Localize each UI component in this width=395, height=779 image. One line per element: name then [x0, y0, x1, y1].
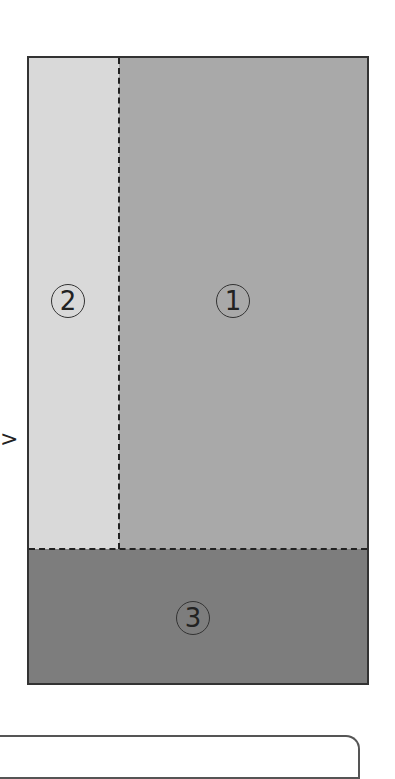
region-2-number: 2 — [60, 288, 77, 314]
rectangle-diagram: 2 1 3 — [27, 56, 369, 685]
region-3-number: 3 — [185, 605, 202, 631]
horizontal-dashed-divider — [29, 548, 367, 550]
side-chevron-mark: > — [0, 428, 18, 450]
region-2-label: 2 — [51, 284, 85, 318]
region-3-label: 3 — [176, 601, 210, 635]
region-1-number: 1 — [225, 288, 242, 314]
vertical-dashed-divider — [118, 58, 120, 549]
region-1-label: 1 — [216, 284, 250, 318]
bottom-rounded-box — [0, 735, 360, 779]
